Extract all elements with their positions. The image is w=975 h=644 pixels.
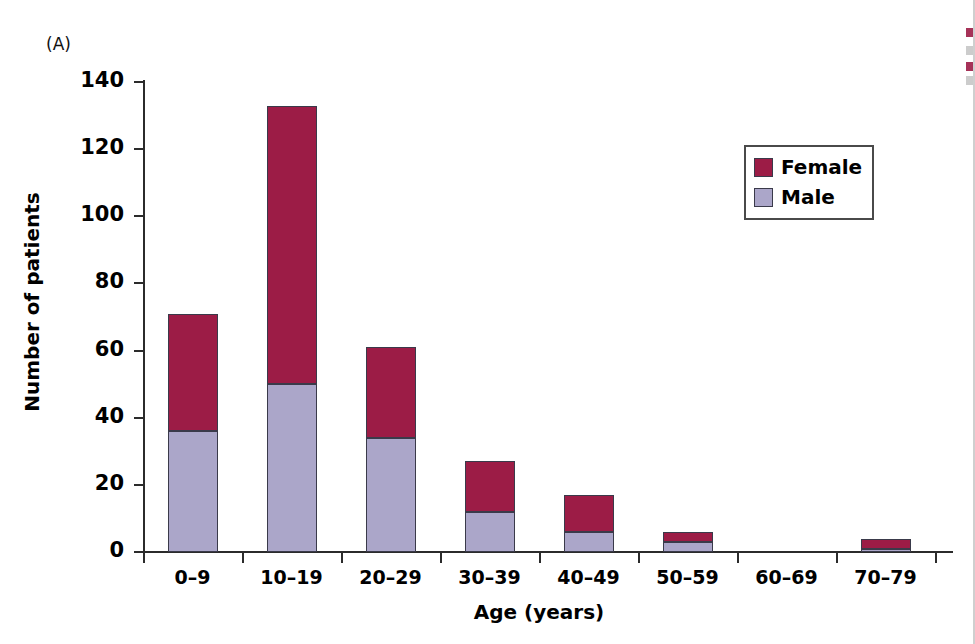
legend-swatch-female-icon — [754, 158, 773, 177]
x-tick-3 — [539, 553, 541, 563]
y-tick-40 — [134, 417, 143, 419]
x-tick-label-3: 30–39 — [440, 566, 539, 588]
x-tick-label-4: 40–49 — [539, 566, 638, 588]
x-tick-label-0: 0–9 — [143, 566, 242, 588]
x-tick-0 — [242, 553, 244, 563]
y-tick-120 — [134, 148, 143, 150]
legend-label-male: Male — [781, 187, 835, 207]
chart-legend: Female Male — [744, 145, 874, 220]
bar-segment-male[interactable] — [465, 512, 515, 552]
x-tick-1 — [341, 553, 343, 563]
bar-segment-male[interactable] — [366, 438, 416, 552]
bar-segment-female[interactable] — [168, 314, 218, 432]
y-tick-label-140: 140 — [60, 68, 124, 92]
y-tick-label-0: 0 — [60, 538, 124, 562]
bar-segment-female[interactable] — [465, 461, 515, 511]
bar-group-50-59[interactable] — [663, 532, 713, 552]
y-tick-label-80: 80 — [60, 269, 124, 293]
x-tick-label-7: 70–79 — [836, 566, 935, 588]
x-tick-4 — [638, 553, 640, 563]
y-axis-title: Number of patients — [20, 167, 44, 437]
x-tick-2 — [440, 553, 442, 563]
bar-group-0-9[interactable] — [168, 314, 218, 552]
y-tick-80 — [134, 282, 143, 284]
bar-segment-female[interactable] — [663, 532, 713, 542]
bar-group-40-49[interactable] — [564, 495, 614, 552]
legend-swatch-male-icon — [754, 188, 773, 207]
y-tick-label-100: 100 — [60, 202, 124, 226]
x-tick-7 — [935, 553, 937, 563]
y-tick-label-60: 60 — [60, 337, 124, 361]
x-tick-label-2: 20–29 — [341, 566, 440, 588]
bar-group-20-29[interactable] — [366, 347, 416, 552]
y-tick-label-120: 120 — [60, 135, 124, 159]
bar-group-70-79[interactable] — [861, 539, 911, 552]
bar-segment-female[interactable] — [861, 539, 911, 549]
bar-segment-male[interactable] — [564, 532, 614, 552]
x-tick-label-5: 50–59 — [638, 566, 737, 588]
figure-panel-a: (A) 020406080100120140 0–910–1920–2930–3… — [0, 0, 975, 644]
bar-segment-female[interactable] — [267, 106, 317, 385]
y-tick-label-20: 20 — [60, 471, 124, 495]
bar-segment-male[interactable] — [168, 431, 218, 552]
bar-group-30-39[interactable] — [465, 461, 515, 552]
x-axis-title: Age (years) — [143, 600, 935, 624]
y-tick-0 — [134, 551, 143, 553]
y-tick-label-40: 40 — [60, 404, 124, 428]
bar-segment-female[interactable] — [564, 495, 614, 532]
bar-segment-male[interactable] — [267, 384, 317, 552]
bar-segment-female[interactable] — [366, 347, 416, 438]
bar-segment-male[interactable] — [663, 542, 713, 552]
y-tick-100 — [134, 215, 143, 217]
x-tick-label-1: 10–19 — [242, 566, 341, 588]
y-tick-20 — [134, 484, 143, 486]
y-tick-60 — [134, 350, 143, 352]
legend-label-female: Female — [781, 157, 862, 177]
x-tick-origin — [143, 553, 145, 563]
legend-item-female[interactable]: Female — [754, 152, 862, 182]
x-tick-6 — [836, 553, 838, 563]
x-tick-label-6: 60–69 — [737, 566, 836, 588]
x-tick-5 — [737, 553, 739, 563]
legend-item-male[interactable]: Male — [754, 182, 862, 212]
y-tick-140 — [134, 81, 143, 83]
bar-group-10-19[interactable] — [267, 106, 317, 552]
bar-segment-male[interactable] — [861, 549, 911, 552]
panel-label: (A) — [46, 34, 71, 54]
